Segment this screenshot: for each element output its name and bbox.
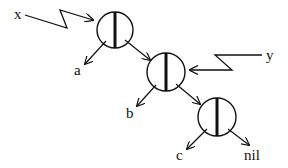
label-nil: nil: [244, 147, 260, 163]
edge-node1-to-a: [85, 41, 106, 64]
edge-node2-to-node3: [176, 84, 200, 104]
node-2: [147, 53, 185, 91]
edge-node3-to-c: [187, 129, 207, 149]
diagram-canvas: x y a b c nil: [0, 0, 288, 168]
label-a: a: [74, 62, 81, 78]
pointer-y-zigzag: [190, 55, 262, 70]
edge-node2-to-b: [137, 85, 156, 106]
label-b: b: [126, 105, 134, 121]
edge-node3-to-nil: [228, 129, 249, 145]
label-x: x: [14, 6, 22, 22]
pointer-x-zigzag: [25, 10, 93, 28]
label-c: c: [176, 147, 183, 163]
edge-node1-to-node2: [125, 40, 150, 60]
label-y: y: [266, 47, 274, 63]
